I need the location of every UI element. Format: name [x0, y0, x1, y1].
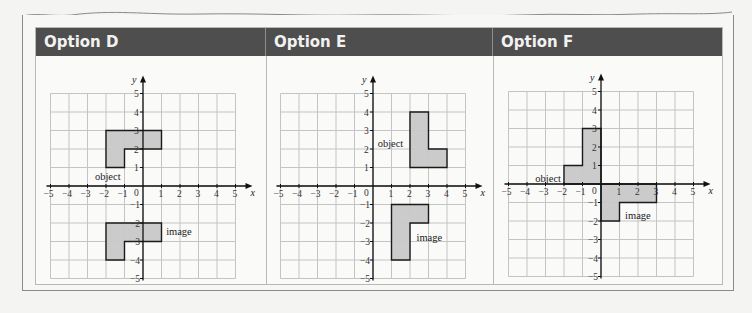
y-tick-label: 1: [592, 161, 597, 171]
y-tick-label: −1: [130, 200, 140, 210]
object-label: object: [95, 171, 121, 182]
axes: [277, 76, 483, 281]
image-label: image: [166, 226, 192, 237]
y-tick-label: −5: [360, 274, 370, 284]
x-tick-label: 1: [159, 189, 164, 199]
y-tick-label: 5: [364, 89, 369, 99]
y-tick-label: −2: [588, 217, 598, 227]
y-axis-arrow-icon: [140, 76, 146, 83]
y-tick-label: 3: [592, 124, 597, 134]
x-tick-label: −1: [118, 189, 128, 199]
y-axis-label: y: [361, 74, 367, 85]
y-tick-label: −4: [130, 256, 140, 266]
y-axis-label: y: [589, 72, 595, 83]
option-f-graph: xy0−5−4−3−2−11234554321−1−2−3−4−5objecti…: [493, 28, 722, 284]
x-tick-label: −5: [44, 189, 54, 199]
y-tick-label: 2: [134, 145, 139, 155]
x-tick-label: 3: [654, 187, 659, 197]
x-tick-label: 2: [177, 189, 182, 199]
options-table: Option D Option E Option F xy0−5−4−3−2−1…: [35, 27, 723, 285]
axes: [47, 76, 253, 281]
y-tick-label: −4: [360, 256, 370, 266]
x-tick-label: 5: [691, 187, 696, 197]
x-tick-label: 2: [635, 187, 640, 197]
x-axis-label: x: [480, 187, 486, 198]
object-label: object: [535, 173, 561, 184]
y-tick-label: 5: [592, 87, 597, 97]
x-tick-label: −4: [520, 187, 530, 197]
y-tick-label: −1: [360, 200, 370, 210]
x-tick-label: 1: [389, 189, 394, 199]
x-tick-label: −2: [99, 189, 109, 199]
x-tick-label: 1: [617, 187, 622, 197]
x-tick-label: −2: [329, 189, 339, 199]
y-tick-label: −3: [360, 237, 370, 247]
x-tick-label: −3: [539, 187, 549, 197]
x-tick-label: −5: [274, 189, 284, 199]
y-tick-label: −3: [588, 235, 598, 245]
x-tick-label: −4: [62, 189, 72, 199]
y-tick-label: 3: [364, 126, 369, 136]
y-tick-label: 5: [134, 89, 139, 99]
y-tick-label: 4: [592, 106, 597, 116]
y-tick-label: 4: [364, 108, 369, 118]
x-tick-label: 4: [214, 189, 219, 199]
y-tick-label: 3: [134, 126, 139, 136]
origin-label: 0: [134, 188, 139, 198]
x-tick-label: 2: [407, 189, 412, 199]
image-label: image: [416, 232, 442, 243]
y-tick-label: −4: [588, 254, 598, 264]
x-tick-label: −1: [348, 189, 358, 199]
x-tick-label: −4: [292, 189, 302, 199]
option-d-graph: xy0−5−4−3−2−11234554321−1−2−3−4−5objecti…: [36, 28, 266, 284]
y-tick-label: 1: [134, 163, 139, 173]
x-tick-label: −2: [557, 187, 567, 197]
origin-label: 0: [592, 186, 597, 196]
x-tick-label: −1: [576, 187, 586, 197]
y-tick-label: 2: [592, 143, 597, 153]
y-tick-label: −5: [588, 272, 598, 282]
x-axis-label: x: [250, 187, 256, 198]
y-tick-label: 4: [134, 108, 139, 118]
origin-label: 0: [364, 188, 369, 198]
x-tick-label: 3: [196, 189, 201, 199]
y-tick-label: −5: [130, 274, 140, 284]
image-label: image: [625, 210, 651, 221]
y-axis-label: y: [131, 74, 137, 85]
x-tick-label: 4: [444, 189, 449, 199]
object-label: object: [378, 138, 404, 149]
x-tick-label: −3: [81, 189, 91, 199]
y-tick-label: −2: [130, 219, 140, 229]
y-tick-label: 2: [364, 145, 369, 155]
y-tick-label: −3: [130, 237, 140, 247]
x-tick-label: −3: [311, 189, 321, 199]
x-tick-label: 5: [463, 189, 468, 199]
y-tick-label: −1: [588, 198, 598, 208]
x-axis-label: x: [708, 185, 714, 196]
x-tick-label: 3: [426, 189, 431, 199]
x-tick-label: 4: [672, 187, 677, 197]
x-tick-label: −5: [502, 187, 512, 197]
y-tick-label: −2: [360, 219, 370, 229]
object-shape: [564, 129, 601, 185]
x-tick-label: 5: [233, 189, 238, 199]
object-shape: [410, 112, 447, 168]
option-e-graph: xy0−5−4−3−2−11234554321−1−2−3−4−5objecti…: [266, 28, 493, 284]
y-axis-arrow-icon: [370, 76, 376, 83]
y-axis-arrow-icon: [598, 74, 604, 81]
y-tick-label: 1: [364, 163, 369, 173]
